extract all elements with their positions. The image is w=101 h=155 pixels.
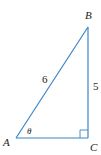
angle-label-theta: θ <box>27 126 32 136</box>
side-ab <box>16 27 88 138</box>
triangle <box>16 27 88 138</box>
vertex-label-b: B <box>85 9 92 21</box>
vertex-label-c: C <box>90 141 98 153</box>
side-label-hypotenuse: 6 <box>42 73 48 85</box>
right-angle-marker <box>80 130 88 138</box>
right-triangle-diagram: B A C 6 5 θ <box>0 0 101 155</box>
vertex-label-a: A <box>2 136 10 148</box>
side-label-bc: 5 <box>93 80 99 92</box>
